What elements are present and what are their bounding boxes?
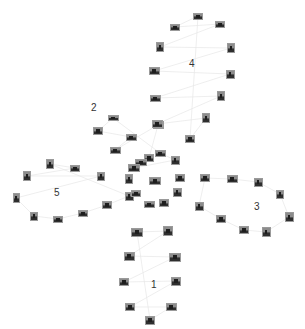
image-thumbnail[interactable] (156, 42, 164, 52)
image-thumbnail[interactable] (110, 147, 121, 154)
image-thumbnail[interactable] (276, 190, 284, 199)
image-thumbnail[interactable] (125, 303, 135, 311)
image-thumbnail[interactable] (70, 165, 80, 172)
image-thumbnail[interactable] (195, 202, 204, 211)
image-thumbnail[interactable] (131, 228, 143, 237)
image-thumbnail[interactable] (145, 316, 155, 325)
image-thumbnail[interactable] (144, 201, 155, 208)
image-thumbnail[interactable] (185, 135, 195, 143)
image-thumbnail[interactable] (239, 226, 249, 234)
image-thumbnail[interactable] (175, 174, 185, 182)
image-thumbnail[interactable] (53, 216, 63, 223)
edge-line (154, 71, 230, 74)
image-thumbnail[interactable] (159, 199, 169, 207)
image-thumbnail[interactable] (128, 164, 140, 172)
image-thumbnail[interactable] (226, 70, 235, 79)
image-thumbnail[interactable] (124, 252, 135, 261)
cluster-label: 1 (151, 280, 157, 290)
edge-line (190, 16, 198, 139)
cluster-label: 5 (54, 188, 60, 198)
image-thumbnail[interactable] (170, 24, 180, 31)
image-thumbnail[interactable] (150, 95, 161, 102)
image-thumbnail[interactable] (149, 177, 161, 185)
image-thumbnail[interactable] (227, 43, 235, 53)
image-thumbnail[interactable] (78, 210, 88, 217)
image-thumbnail[interactable] (262, 227, 271, 237)
image-thumbnail[interactable] (202, 113, 210, 123)
image-thumbnail[interactable] (149, 67, 160, 75)
image-thumbnail[interactable] (171, 277, 181, 286)
image-thumbnail[interactable] (227, 175, 238, 183)
image-thumbnail[interactable] (93, 127, 103, 135)
edge-line (27, 168, 75, 176)
cluster-label: 4 (189, 59, 195, 69)
image-thumbnail[interactable] (217, 91, 225, 101)
image-thumbnail[interactable] (108, 115, 119, 121)
image-thumbnail[interactable] (102, 201, 112, 209)
image-thumbnail[interactable] (125, 174, 133, 184)
image-thumbnail[interactable] (152, 120, 163, 128)
image-thumbnail[interactable] (171, 156, 180, 165)
image-thumbnail[interactable] (119, 278, 129, 286)
edge-line (50, 164, 129, 196)
image-thumbnail[interactable] (216, 215, 226, 223)
image-thumbnail[interactable] (13, 193, 20, 203)
cluster-label: 2 (91, 103, 97, 113)
edge-line (155, 96, 221, 98)
edge-line (124, 281, 176, 282)
image-thumbnail[interactable] (215, 21, 225, 28)
cluster-label: 3 (254, 202, 260, 212)
edge-line (124, 257, 175, 282)
image-thumbnail[interactable] (126, 134, 137, 141)
image-thumbnail[interactable] (285, 212, 294, 222)
image-thumbnail[interactable] (23, 171, 31, 181)
image-thumbnail[interactable] (193, 13, 203, 20)
image-thumbnail[interactable] (97, 172, 105, 181)
edge-line (160, 24, 220, 47)
image-thumbnail[interactable] (169, 253, 181, 262)
image-thumbnail[interactable] (254, 178, 263, 187)
image-thumbnail[interactable] (163, 226, 173, 236)
image-thumbnail[interactable] (30, 212, 38, 221)
cluster-diagram: 12345 (0, 0, 305, 329)
image-thumbnail[interactable] (46, 159, 54, 169)
image-thumbnail[interactable] (166, 303, 177, 311)
image-thumbnail[interactable] (155, 150, 166, 157)
image-thumbnail[interactable] (131, 190, 141, 197)
image-thumbnail[interactable] (173, 188, 182, 197)
edge-line (160, 47, 231, 48)
image-thumbnail[interactable] (200, 174, 210, 182)
